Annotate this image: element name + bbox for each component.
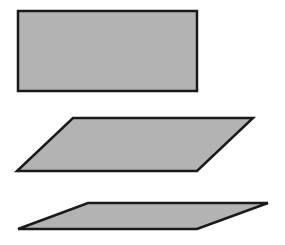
parallelogram-medium-shape <box>17 118 253 171</box>
parallelogram-flat-shape <box>18 203 268 229</box>
shapes-diagram <box>0 0 285 245</box>
rectangle-shape <box>18 11 197 91</box>
